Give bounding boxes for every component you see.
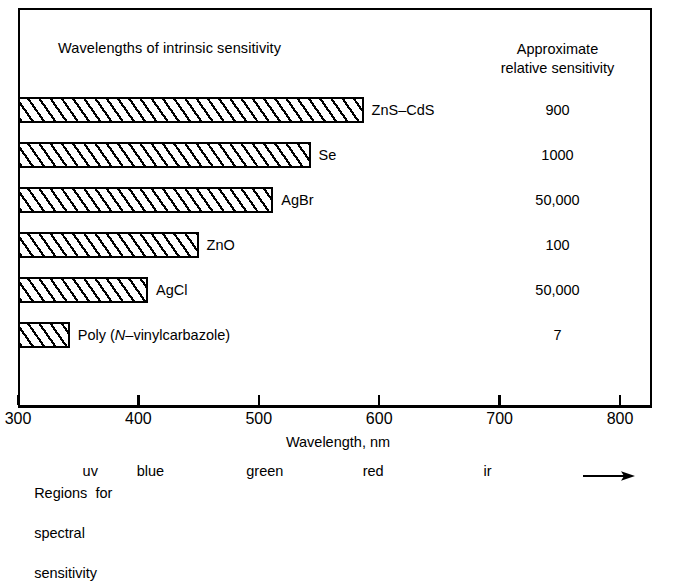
x-tick-label-400: 400 bbox=[125, 410, 152, 428]
spectral-region-ir: ir bbox=[484, 463, 492, 479]
x-axis-title: Wavelength, nm bbox=[0, 434, 676, 450]
header-right-line2: relative sensitivity bbox=[470, 59, 645, 78]
x-axis-line bbox=[18, 405, 652, 408]
spectral-regions-caption: Regions for spectral sensitivity bbox=[18, 463, 112, 585]
bar-label-agcl: AgCl bbox=[156, 277, 187, 303]
bar-se bbox=[18, 142, 311, 168]
sensitivity-value-zno: 100 bbox=[470, 232, 645, 258]
header-right-title: Approximate relative sensitivity bbox=[470, 40, 645, 78]
bar-label-poly-prefix: Poly ( bbox=[78, 327, 115, 343]
bar-poly-n-vinylcarbazole bbox=[18, 322, 70, 348]
x-tick-label-500: 500 bbox=[245, 410, 272, 428]
bar-label-zno: ZnO bbox=[207, 232, 235, 258]
x-tick-label-300: 300 bbox=[5, 410, 32, 428]
x-tick-label-700: 700 bbox=[486, 410, 513, 428]
bar-label-zns-cds: ZnS–CdS bbox=[372, 97, 435, 123]
x-tick-300 bbox=[17, 395, 20, 405]
bar-agcl bbox=[18, 277, 148, 303]
bar-label-se: Se bbox=[319, 142, 337, 168]
sensitivity-value-agcl: 50,000 bbox=[470, 277, 645, 303]
x-tick-400 bbox=[137, 395, 140, 405]
spectral-regions-line3: sensitivity bbox=[34, 565, 97, 581]
bar-zno bbox=[18, 232, 199, 258]
spectral-regions-line2: spectral bbox=[34, 525, 85, 541]
sensitivity-value-poly-n-vinylcarbazole: 7 bbox=[470, 322, 645, 348]
x-tick-label-800: 800 bbox=[607, 410, 634, 428]
sensitivity-value-zns-cds: 900 bbox=[470, 97, 645, 123]
x-tick-500 bbox=[258, 395, 261, 405]
bar-zns-cds bbox=[18, 97, 364, 123]
spectral-region-uv: uv bbox=[83, 463, 98, 479]
x-tick-label-600: 600 bbox=[366, 410, 393, 428]
header-right-line1: Approximate bbox=[470, 40, 645, 59]
header-left-title: Wavelengths of intrinsic sensitivity bbox=[58, 40, 281, 56]
spectral-region-green: green bbox=[246, 463, 283, 479]
ir-arrow-icon bbox=[583, 470, 635, 482]
x-tick-800 bbox=[619, 395, 622, 405]
x-tick-600 bbox=[378, 395, 381, 405]
bar-label-poly-n-vinylcarbazole: Poly (N–vinylcarbazole) bbox=[78, 322, 230, 348]
spectral-region-blue: blue bbox=[137, 463, 164, 479]
sensitivity-value-agbr: 50,000 bbox=[470, 187, 645, 213]
bar-label-poly-italic-n: N bbox=[115, 327, 125, 343]
sensitivity-value-se: 1000 bbox=[470, 142, 645, 168]
bar-agbr bbox=[18, 187, 273, 213]
spectral-region-red: red bbox=[363, 463, 384, 479]
bar-label-agbr: AgBr bbox=[281, 187, 313, 213]
bar-label-poly-suffix: –vinylcarbazole) bbox=[125, 327, 230, 343]
x-tick-700 bbox=[498, 395, 501, 405]
spectral-regions-line1: Regions for bbox=[34, 485, 112, 501]
